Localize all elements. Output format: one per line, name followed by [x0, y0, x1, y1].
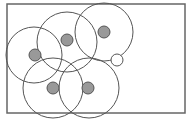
node-e	[82, 82, 94, 94]
coverage-diagram	[0, 0, 194, 119]
node-c	[98, 26, 110, 38]
empty-node	[111, 54, 123, 66]
node-d	[47, 82, 59, 94]
node-b	[61, 34, 73, 46]
node-a	[29, 49, 41, 61]
